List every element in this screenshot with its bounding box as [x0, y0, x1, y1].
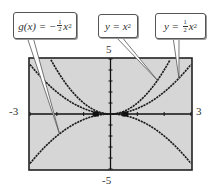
ymin-label: -5: [102, 175, 111, 186]
callout-g-prefix: g(x) = −: [18, 20, 56, 32]
xmin-label: -3: [9, 106, 18, 117]
xmax-label: 3: [196, 106, 202, 117]
fraction: 1 2: [57, 19, 62, 33]
callout-y-half-x2: y = 1 2 x2: [155, 13, 206, 39]
callout-y-x2: y = x2: [98, 14, 138, 38]
fraction: 1 2: [183, 19, 188, 33]
ymax-label: 5: [106, 44, 112, 55]
graph-figure: 5 -5 -3 3 g(x) = − 1 2 x2 y = x2 y = 1 2…: [0, 0, 213, 191]
callout-g: g(x) = − 1 2 x2: [13, 12, 77, 39]
